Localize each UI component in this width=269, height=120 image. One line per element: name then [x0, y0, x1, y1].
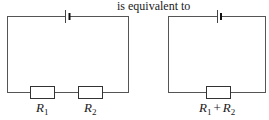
- label-r2: R2: [84, 101, 96, 119]
- label-r2-subscript: 2: [92, 107, 97, 117]
- resistor-equivalent: [207, 87, 231, 99]
- right-circuit: [168, 16, 266, 93]
- label-r1-symbol: R: [36, 100, 44, 115]
- label-r1-plus-r2: R1+R2: [199, 101, 235, 119]
- sum-term1-symbol: R: [199, 100, 207, 115]
- battery-icon: [66, 10, 71, 23]
- label-r1-subscript: 1: [44, 107, 49, 117]
- label-r1: R1: [36, 101, 48, 119]
- label-r2-symbol: R: [84, 100, 92, 115]
- resistor-r1: [31, 87, 55, 99]
- battery-icon: [218, 10, 223, 23]
- resistor-r2: [79, 87, 103, 99]
- sum-term2-symbol: R: [223, 100, 231, 115]
- left-circuit: [7, 16, 129, 93]
- sum-term2-subscript: 2: [231, 107, 236, 117]
- plus-operator: +: [211, 100, 222, 115]
- equivalence-caption: is equivalent to: [117, 0, 190, 13]
